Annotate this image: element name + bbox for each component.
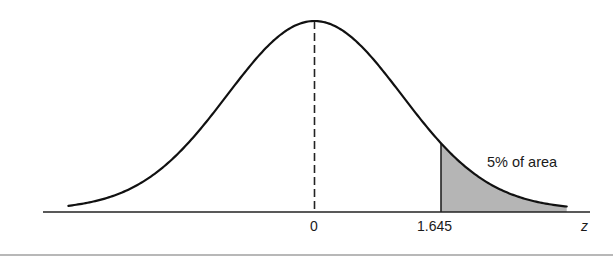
normal-distribution-chart xyxy=(0,0,613,256)
tick-label-zero: 0 xyxy=(310,219,318,233)
normal-curve xyxy=(68,21,566,206)
tail-area-label: 5% of area xyxy=(487,155,557,170)
tick-label-critical: 1.645 xyxy=(417,219,452,233)
x-axis-label: z xyxy=(581,219,588,233)
